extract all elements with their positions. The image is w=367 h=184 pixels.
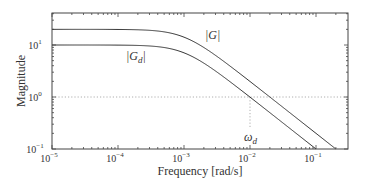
- x-tick-label: 10−1: [304, 151, 322, 164]
- y-axis-label: Magnitude: [14, 55, 28, 107]
- y-tick-labels: 10110010−1: [26, 38, 44, 155]
- x-tick-label: 10−2: [238, 151, 256, 164]
- plot-frame: [52, 13, 348, 149]
- bode-magnitude-chart: 10−510−410−310−210−1 10110010−1 Frequenc…: [0, 0, 367, 184]
- curves: [52, 29, 336, 149]
- y-tick-label: 100: [28, 90, 42, 103]
- y-tick-label: 101: [28, 38, 42, 51]
- label-Gd: |Gd|: [126, 49, 146, 65]
- label-omega-d: ωd: [244, 130, 257, 146]
- x-tick-labels: 10−510−410−310−210−1: [40, 151, 322, 164]
- x-axis-label: Frequency [rad/s]: [158, 164, 243, 178]
- x-tick-label: 10−4: [106, 151, 124, 164]
- axis-ticks: [52, 13, 348, 149]
- x-tick-label: 10−3: [172, 151, 190, 164]
- label-G: |G|: [205, 28, 220, 42]
- x-tick-label: 10−5: [40, 151, 58, 164]
